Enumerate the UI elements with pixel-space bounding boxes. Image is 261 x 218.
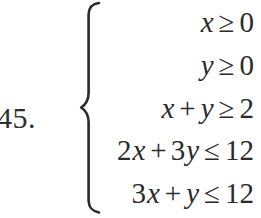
inequality-system: x≥0 y≥0 x+y≥2 2x+3y≤12 3x+y≤12 [96,0,254,218]
row-4-second-variable: y [185,134,200,166]
row-1-lhs-variable: x [200,6,215,38]
inequality-row-4: 2x+3y≤12 [96,134,254,167]
row-5-second-variable: y [185,177,200,209]
row-3-relation: ≥ [215,92,240,124]
row-4-relation: ≤ [200,134,225,166]
inequality-row-2: y≥0 [96,49,254,82]
row-4-lhs-coefficient: 2 [117,134,132,166]
row-4-second-coefficient: 3 [171,134,186,166]
problem-page: 45. x≥0 y≥0 x+y≥2 2x+3y≤12 3x+y≤12 [0,0,261,218]
inequality-row-1: x≥0 [96,6,254,39]
row-5-lhs-variable: x [146,177,161,209]
row-3-rhs: 2 [240,92,255,124]
row-4-operator: + [146,134,170,166]
row-3-second-variable: y [200,92,215,124]
row-5-operator: + [161,177,185,209]
row-2-rhs: 0 [240,49,255,81]
row-1-rhs: 0 [240,6,255,38]
row-2-lhs-variable: y [200,49,215,81]
row-5-rhs: 12 [225,177,254,209]
row-2-relation: ≥ [215,49,240,81]
row-4-rhs: 12 [225,134,254,166]
row-3-operator: + [175,92,199,124]
row-5-lhs-coefficient: 3 [131,177,146,209]
row-5-relation: ≤ [200,177,225,209]
inequality-row-3: x+y≥2 [96,92,254,125]
inequality-row-5: 3x+y≤12 [96,177,254,210]
row-1-relation: ≥ [215,6,240,38]
problem-number-label: 45. [0,100,36,136]
row-4-lhs-variable: x [131,134,146,166]
row-3-lhs-variable: x [160,92,175,124]
